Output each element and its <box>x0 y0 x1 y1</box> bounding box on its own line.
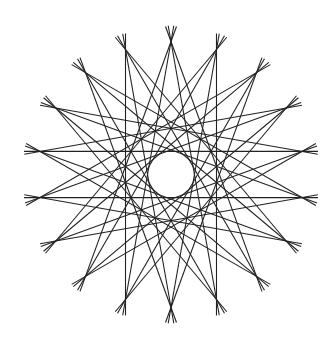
chord-lines <box>24 26 318 324</box>
star-polygon-diagram <box>0 0 335 346</box>
